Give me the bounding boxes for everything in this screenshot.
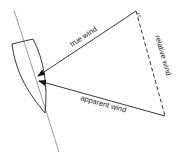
relative-wind-line (136, 11, 165, 116)
boat-hull (12, 39, 46, 113)
wind-vector-diagram: true wind relative wind apparent wind (0, 0, 177, 155)
apparent-wind-label: apparent wind (79, 93, 127, 114)
diagram-svg: true wind relative wind apparent wind (0, 0, 177, 155)
boat-centerline (14, 10, 59, 152)
relative-wind-label: relative wind (153, 34, 173, 77)
true-wind-label: true wind (68, 24, 98, 48)
vertex-tick-mark (137, 13, 141, 16)
true-wind-arrow (38, 11, 136, 76)
